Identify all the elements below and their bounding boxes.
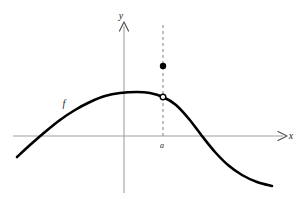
open-circle-hole-marker [160,94,166,100]
y-axis-label: y [118,10,124,21]
axes-group [13,22,287,193]
curve-f-label: f [63,98,67,109]
function-graph-figure: y x f a [0,0,301,212]
filled-limit-point-marker [160,63,166,69]
x-tick-a-label: a [160,141,164,150]
function-curve-f [17,92,272,186]
x-axis-label: x [288,130,294,141]
graph-canvas: y x f a [0,0,301,212]
